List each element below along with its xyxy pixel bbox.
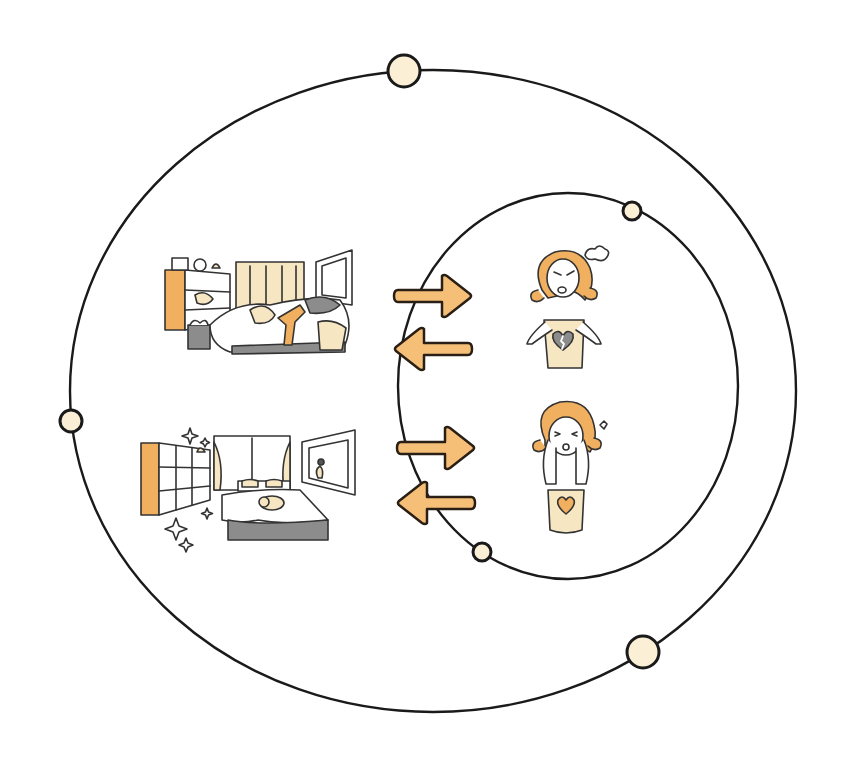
messy-room-illustration xyxy=(165,250,352,354)
happy-woman-illustration xyxy=(533,401,607,533)
cycle-diagram xyxy=(0,0,846,767)
arrow-happy-to-tidy xyxy=(398,482,475,524)
outer-cycle-ring xyxy=(70,70,796,712)
outer-node-top xyxy=(388,55,420,87)
inner-node-top-right xyxy=(623,202,641,220)
outer-node-left xyxy=(60,410,82,432)
arrow-angry-to-messy xyxy=(395,328,472,370)
arrow-messy-to-angry xyxy=(394,275,471,317)
outer-node-bottom-right xyxy=(627,636,659,668)
tidy-room-illustration xyxy=(141,428,355,552)
arrow-tidy-to-happy xyxy=(397,427,474,469)
inner-node-bottom-left xyxy=(473,543,491,561)
angry-woman-illustration xyxy=(527,246,609,368)
